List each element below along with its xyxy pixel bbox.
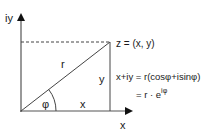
angle-label: φ [42,98,49,110]
adjacent-leg-label: x [80,98,86,110]
opposite-leg-label: y [99,73,105,85]
hypotenuse-label: r [61,58,65,70]
equation-line-2-exponent: iφ [161,87,168,95]
equation-line-1: x+iy = r(cosφ+isinφ) [116,71,200,82]
angle-arc [49,90,56,112]
x-axis-label: x [120,119,126,131]
hypotenuse-r [21,42,110,111]
y-axis-label: iy [5,12,13,24]
equation-line-2-prefix: = r · e [136,89,161,100]
complex-plane-diagram: iy x r φ x y z = (x, y) x+iy = r(cosφ+is… [0,0,221,134]
point-z-label: z = (x, y) [116,38,155,49]
equation-line-2: = r · eiφ [136,87,168,100]
